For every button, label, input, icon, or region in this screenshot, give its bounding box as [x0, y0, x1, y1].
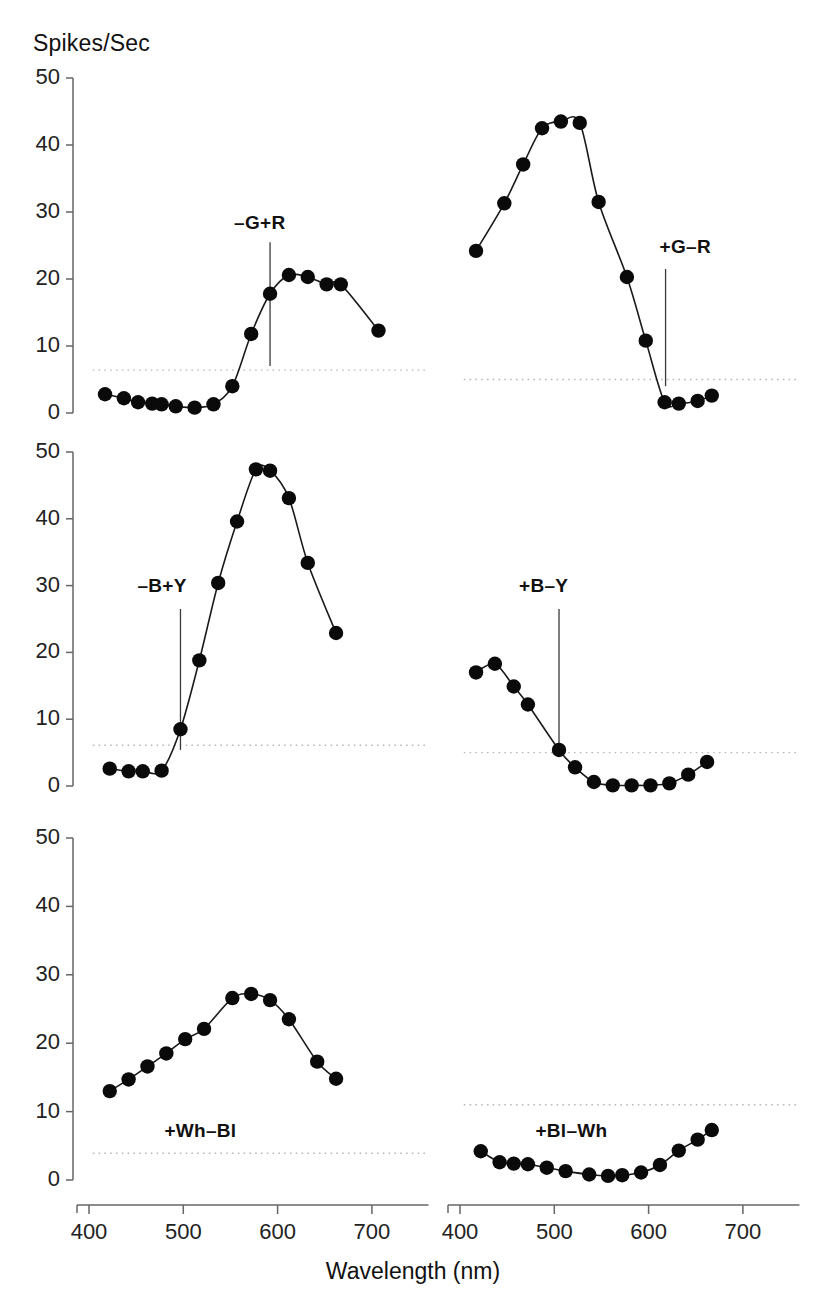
- data-point: [319, 277, 333, 291]
- data-point: [103, 761, 117, 775]
- data-point: [653, 1158, 667, 1172]
- data-point: [98, 387, 112, 401]
- data-point: [131, 395, 145, 409]
- data-point: [700, 755, 714, 769]
- data-point: [310, 1054, 324, 1068]
- data-point: [244, 327, 258, 341]
- data-point: [469, 244, 483, 258]
- data-point: [690, 1132, 704, 1146]
- data-point: [624, 778, 638, 792]
- data-point: [540, 1160, 554, 1174]
- data-point: [507, 679, 521, 693]
- x-tick-label: 700: [708, 1219, 778, 1245]
- data-point: [263, 993, 277, 1007]
- condition-label-panel-g-plus-r: –G+R: [234, 212, 285, 234]
- data-point: [672, 396, 686, 410]
- data-point: [601, 1169, 615, 1183]
- y-tick-label: 0: [12, 399, 60, 425]
- x-tick-label: 600: [243, 1219, 313, 1245]
- data-point: [662, 776, 676, 790]
- y-tick-label: 40: [12, 505, 60, 531]
- figure-root: Spikes/Sec Wavelength (nm) 0102030405001…: [0, 0, 826, 1312]
- data-point: [117, 391, 131, 405]
- data-point: [554, 114, 568, 128]
- data-point: [121, 764, 135, 778]
- data-point: [620, 270, 634, 284]
- condition-label-panel-plus-wh-minus-bl: +Wh–Bl: [164, 1120, 236, 1142]
- x-tick-label: 600: [614, 1219, 684, 1245]
- data-point: [159, 1046, 173, 1060]
- plot-canvas: [0, 0, 826, 1312]
- panel-plus-g-minus-r: [464, 114, 798, 410]
- panel-plus-wh-minus-bl: [93, 987, 427, 1154]
- data-point: [103, 1084, 117, 1098]
- data-point: [573, 116, 587, 130]
- data-point: [334, 277, 348, 291]
- condition-label-panel-minus-b-plus-y: –B+Y: [137, 575, 186, 597]
- data-point: [197, 1022, 211, 1036]
- data-point: [154, 763, 168, 777]
- data-point: [488, 657, 502, 671]
- data-point: [169, 399, 183, 413]
- y-tick-label: 20: [12, 265, 60, 291]
- condition-label-panel-plus-g-minus-r: +G–R: [660, 236, 711, 258]
- data-point: [643, 778, 657, 792]
- data-point: [187, 400, 201, 414]
- data-point: [136, 764, 150, 778]
- data-point: [657, 395, 671, 409]
- data-point: [587, 775, 601, 789]
- x-tick-label: 400: [425, 1219, 495, 1245]
- data-point: [263, 287, 277, 301]
- data-point: [672, 1143, 686, 1157]
- y-tick-label: 30: [12, 961, 60, 987]
- condition-label-panel-plus-b-minus-y: +B–Y: [519, 575, 568, 597]
- condition-label-panel-plus-bl-minus-wh: +Bl–Wh: [535, 1120, 607, 1142]
- data-point: [225, 379, 239, 393]
- y-tick-label: 20: [12, 1029, 60, 1055]
- data-point: [552, 743, 566, 757]
- data-point: [263, 464, 277, 478]
- data-point: [492, 1155, 506, 1169]
- y-tick-label: 10: [12, 1098, 60, 1124]
- data-point: [206, 397, 220, 411]
- data-point: [140, 1059, 154, 1073]
- data-point: [568, 760, 582, 774]
- x-tick-label: 500: [519, 1219, 589, 1245]
- y-tick-label: 50: [12, 824, 60, 850]
- data-point: [244, 987, 258, 1001]
- panel-plus-bl-minus-wh: [464, 1105, 798, 1183]
- data-point: [634, 1165, 648, 1179]
- data-point: [705, 1123, 719, 1137]
- data-point: [121, 1072, 135, 1086]
- y-tick-label: 40: [12, 131, 60, 157]
- data-point: [282, 1012, 296, 1026]
- data-point: [639, 333, 653, 347]
- data-point: [582, 1167, 596, 1181]
- data-point: [705, 388, 719, 402]
- y-tick-label: 30: [12, 572, 60, 598]
- data-point: [173, 722, 187, 736]
- y-tick-label: 0: [12, 772, 60, 798]
- data-point: [591, 195, 605, 209]
- data-point: [516, 157, 530, 171]
- y-tick-label: 0: [12, 1166, 60, 1192]
- data-point: [615, 1168, 629, 1182]
- data-point: [192, 653, 206, 667]
- y-tick-label: 10: [12, 705, 60, 731]
- data-point: [178, 1032, 192, 1046]
- data-point: [469, 665, 483, 679]
- data-point: [681, 767, 695, 781]
- data-point: [225, 991, 239, 1005]
- panel-g-plus-r: [93, 242, 427, 415]
- data-point: [329, 626, 343, 640]
- y-tick-label: 30: [12, 198, 60, 224]
- data-point: [497, 196, 511, 210]
- y-tick-label: 40: [12, 892, 60, 918]
- data-point: [249, 462, 263, 476]
- panel-minus-b-plus-y: [93, 462, 427, 778]
- data-point: [521, 697, 535, 711]
- data-point: [690, 394, 704, 408]
- y-tick-label: 10: [12, 332, 60, 358]
- data-point: [535, 121, 549, 135]
- data-point: [301, 556, 315, 570]
